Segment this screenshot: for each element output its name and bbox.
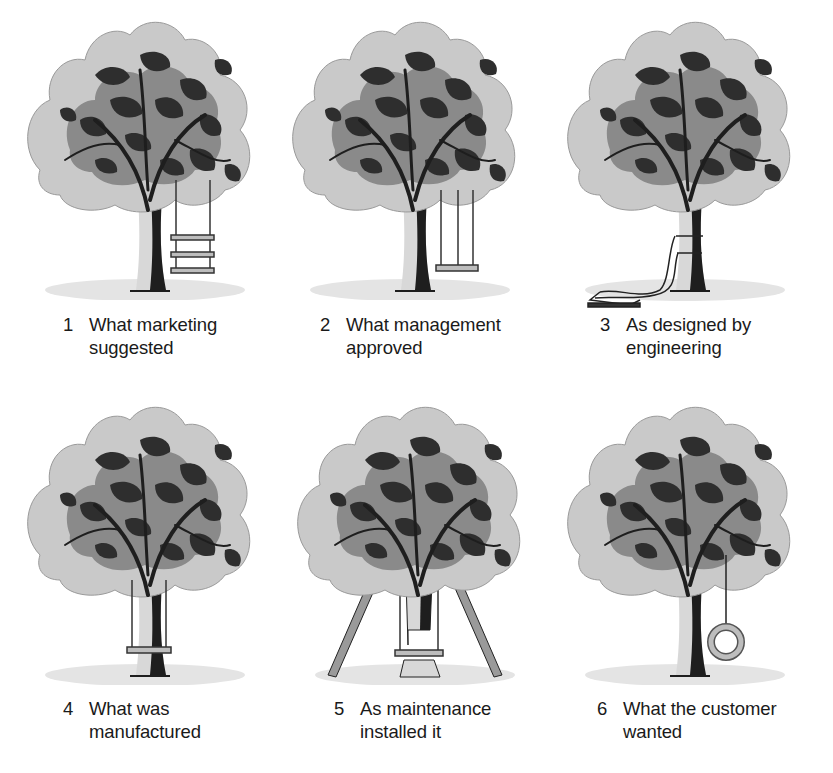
caption-number: 2 <box>320 313 330 336</box>
caption-line-2: wanted <box>623 721 682 742</box>
tree-illustration <box>0 385 270 685</box>
panel-3: 3 As designed by engineering <box>540 0 810 380</box>
caption-text: What was manufactured <box>89 697 201 743</box>
caption-text: What the customer wanted <box>623 697 777 743</box>
caption-line-2: approved <box>346 337 422 358</box>
tree-illustration <box>0 0 270 300</box>
tree-illustration <box>270 385 560 685</box>
caption-line-2: installed it <box>360 721 441 742</box>
caption-line-1: As maintenance <box>360 698 491 719</box>
caption-line-1: What the customer <box>623 698 777 719</box>
caption-number: 6 <box>597 697 607 720</box>
caption-line-1: What management <box>346 314 501 335</box>
tree-illustration <box>540 0 830 310</box>
caption-text: As designed by engineering <box>626 313 751 359</box>
caption-line-2: engineering <box>626 337 722 358</box>
caption-line-1: What was <box>89 698 169 719</box>
tree-illustration <box>265 0 535 300</box>
panel-6: 6 What the customer wanted <box>540 385 810 765</box>
caption-line-1: What marketing <box>89 314 217 335</box>
caption-text: What management approved <box>346 313 501 359</box>
caption-text: As maintenance installed it <box>360 697 491 743</box>
caption-text: What marketing suggested <box>89 313 217 359</box>
caption-number: 4 <box>63 697 73 720</box>
panel-2: 2 What management approved <box>265 0 535 380</box>
panel-5: 5 As maintenance installed it <box>270 385 540 765</box>
caption-number: 1 <box>63 313 73 336</box>
panel-4: 4 What was manufactured <box>0 385 270 765</box>
tree-illustration <box>540 385 830 685</box>
caption-number: 5 <box>334 697 344 720</box>
panel-1: 1 What marketing suggested <box>0 0 270 380</box>
caption-line-2: manufactured <box>89 721 201 742</box>
caption-line-2: suggested <box>89 337 173 358</box>
caption-number: 3 <box>600 313 610 336</box>
caption-line-1: As designed by <box>626 314 751 335</box>
